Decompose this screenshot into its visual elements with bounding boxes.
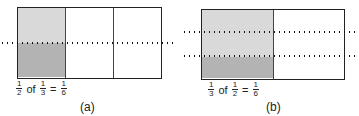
fraction: 16 [253,81,259,98]
dotted-line-third-1 [182,31,359,33]
shaded-half [202,10,273,57]
caption-b: (b) [266,100,281,114]
panel-b: 13 of 12 = 16 (b) [180,0,359,116]
rectangle-b [201,9,345,80]
shaded-third-top [18,8,65,43]
panel-a: 12 of 13 = 16 (a) [0,0,180,116]
fraction: 13 [40,80,46,97]
fraction: 13 [208,81,214,98]
equals-sign: = [242,84,248,96]
equation-b: 13 of 12 = 16 [208,81,259,98]
caption-a: (a) [80,100,95,114]
equation-a: 12 of 13 = 16 [16,80,67,97]
equals-sign: = [50,83,56,95]
divider-1 [273,10,274,79]
fraction: 12 [232,81,238,98]
fraction: 16 [61,80,67,97]
dotted-line-third-2 [182,55,359,57]
word-of: of [218,84,227,96]
shaded-sixth [18,43,65,77]
fraction: 12 [16,80,22,97]
dotted-line-half [0,42,175,44]
word-of: of [26,83,35,95]
shaded-sixth [202,57,273,78]
